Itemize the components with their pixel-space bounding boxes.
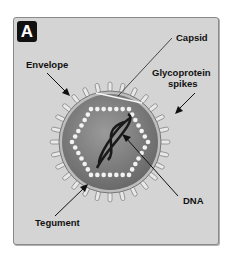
spikes-leader <box>178 93 195 110</box>
spikes-arrow-icon <box>175 106 183 114</box>
envelope-leader <box>47 73 67 93</box>
label-glycoprotein: Glycoprotein <box>152 68 211 78</box>
label-spikes: spikes <box>168 79 198 89</box>
label-capsid: Capsid <box>176 33 208 43</box>
label-dna: DNA <box>183 196 204 206</box>
label-tegument: Tegument <box>35 218 80 228</box>
label-envelope: Envelope <box>26 60 68 70</box>
tegument-leader <box>55 188 84 216</box>
